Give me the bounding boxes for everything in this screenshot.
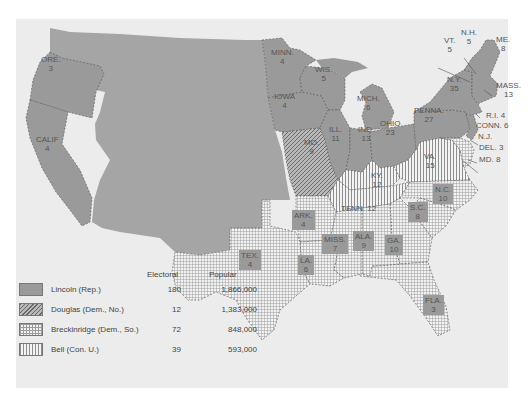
label-indiana: IND. 13	[358, 125, 374, 143]
legend-header-electoral: Electoral	[147, 270, 178, 279]
legend-name: Lincoln (Rep.)	[51, 285, 101, 294]
label-georgia: GA. 10	[385, 235, 403, 255]
label-ohio: OHIO 23	[380, 119, 400, 137]
legend-name: Bell (Con. U.)	[51, 345, 99, 354]
label-iowa: IOWA 4	[274, 92, 295, 110]
label-vermont: VT. 5	[444, 36, 456, 54]
label-delaware: DEL. 3	[479, 143, 503, 152]
legend-row-lincoln: Lincoln (Rep.) 180 1,866,000	[19, 283, 279, 297]
label-minnesota: MINN. 4	[271, 48, 294, 66]
legend-electoral: 12	[151, 305, 181, 314]
label-california: CALIF 4	[36, 135, 59, 153]
label-maryland: MD. 8	[479, 155, 500, 164]
label-wisconsin: WIS. 5	[315, 65, 332, 83]
label-kentucky: KY. 12	[371, 171, 383, 189]
legend-row-douglas: Douglas (Dem., No.) 12 1,383,000	[19, 303, 279, 317]
label-oregon: ORE. 3	[41, 55, 61, 73]
label-virginia: VA. 15	[424, 152, 436, 170]
state-california	[26, 100, 92, 226]
label-south-carolina: S.C. 8	[408, 202, 428, 222]
swatch-solid-icon	[19, 283, 43, 296]
label-arkansas: ARK. 4	[292, 210, 315, 230]
legend-electoral: 72	[151, 325, 181, 334]
legend-electoral: 39	[151, 345, 181, 354]
label-florida: FLA. 3	[423, 295, 444, 315]
label-alabama: ALA. 9	[353, 231, 374, 251]
legend-header-popular: Popular	[209, 270, 237, 279]
legend-electoral: 180	[151, 285, 181, 294]
label-pennsylvania: PENNA. 27	[414, 106, 444, 124]
label-illinois: ILL. 11	[329, 125, 342, 143]
legend-popular: 848,000	[197, 325, 257, 334]
legend-row-breckinridge: Breckinridge (Dem., So.) 72 848,000	[19, 323, 279, 337]
swatch-vertical-icon	[19, 343, 43, 356]
label-connecticut: CONN. 6	[476, 121, 508, 130]
label-north-carolina: N.C. 10	[433, 184, 453, 204]
label-new-york: N.Y. 35	[447, 75, 462, 93]
label-texas: TEX. 4	[239, 250, 261, 270]
swatch-diagonal-icon	[19, 303, 43, 316]
legend-name: Breckinridge (Dem., So.)	[51, 325, 139, 334]
label-missouri: MO. 9	[304, 138, 319, 156]
label-new-jersey: N.J.	[478, 132, 492, 141]
legend-popular: 1,866,000	[197, 285, 257, 294]
label-michigan: MICH. 6	[357, 94, 380, 112]
label-rhode-island: R.I. 4	[486, 111, 505, 120]
label-massachusetts: MASS. 13	[496, 81, 521, 99]
label-mississippi: MISS. 7	[322, 234, 348, 254]
label-tennessee: TENN. 12	[341, 204, 376, 213]
legend-popular: 593,000	[197, 345, 257, 354]
label-maine: ME. 8	[496, 35, 510, 53]
legend: Electoral Popular Lincoln (Rep.) 180 1,8…	[19, 270, 279, 380]
map-panel: ORE. 3 CALIF 4 MINN. 4 WIS. 5 IOWA 4 MIC…	[16, 19, 508, 388]
legend-popular: 1,383,000	[197, 305, 257, 314]
label-new-hampshire: N.H. 5	[461, 28, 477, 46]
legend-name: Douglas (Dem., No.)	[51, 305, 124, 314]
legend-row-bell: Bell (Con. U.) 39 593,000	[19, 343, 279, 357]
label-louisiana: LA. 6	[298, 255, 314, 275]
swatch-grid-icon	[19, 323, 43, 336]
